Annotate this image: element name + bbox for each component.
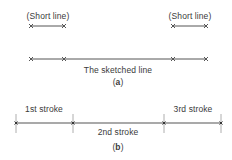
sketched-line	[29, 57, 208, 61]
figure-canvas: (Short line) (Short line) The sketched l…	[0, 0, 232, 160]
caption-a: (a)	[113, 77, 124, 87]
caption-b: (b)	[112, 142, 123, 152]
stroke1-label: 1st stroke	[25, 104, 63, 114]
caption-b-close: )	[121, 142, 124, 152]
short-line-right	[171, 24, 208, 28]
stroke2-label: 2nd stroke	[98, 127, 139, 137]
caption-a-close: )	[120, 77, 123, 87]
stroke3-label: 3rd stroke	[174, 104, 213, 114]
sketched-line-label: The sketched line	[84, 65, 152, 75]
short-line-left-label: (Short line)	[27, 11, 70, 21]
short-line-right-label: (Short line)	[169, 11, 212, 21]
short-line-left	[29, 24, 66, 28]
